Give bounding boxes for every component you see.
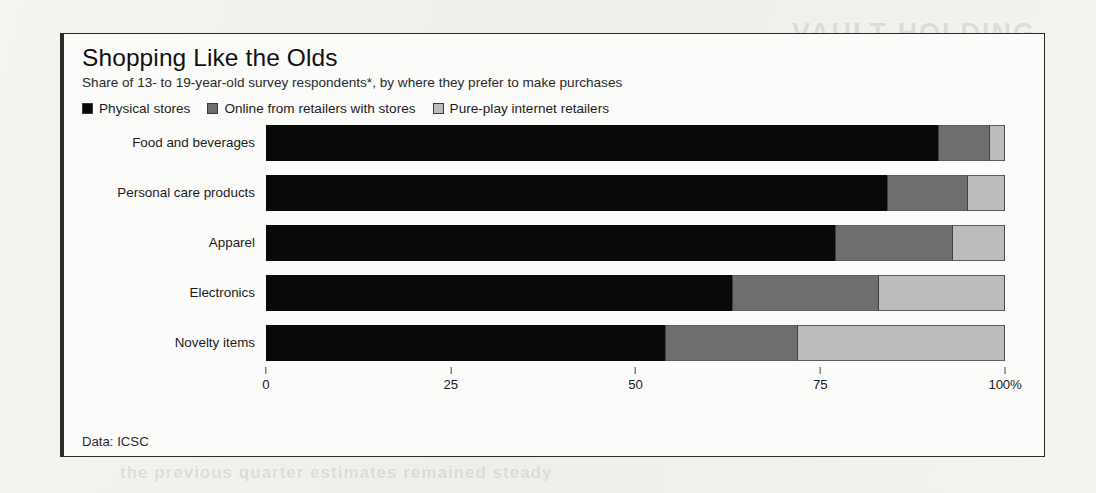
- bar-track: [266, 125, 1005, 161]
- bar-row: Novelty items: [82, 325, 1026, 361]
- chart-legend: Physical stores Online from retailers wi…: [82, 101, 1026, 116]
- page-bleed-text-3: the previous quarter estimates remained …: [120, 463, 552, 483]
- bar-row-label: Electronics: [82, 285, 266, 300]
- bar-segment: [938, 125, 990, 161]
- legend-swatch-icon: [82, 103, 93, 114]
- tick-mark: [266, 367, 267, 374]
- legend-label: Pure-play internet retailers: [450, 101, 609, 116]
- legend-item-physical-stores: Physical stores: [82, 101, 190, 116]
- bar-row-label: Food and beverages: [82, 135, 266, 150]
- bar-segment: [266, 275, 732, 311]
- tick-label: 25: [443, 377, 458, 392]
- bar-row-label: Apparel: [82, 235, 266, 250]
- bar-segment: [887, 175, 968, 211]
- legend-label: Online from retailers with stores: [224, 101, 415, 116]
- bar-segment: [879, 275, 1005, 311]
- x-axis-tick: 100%: [989, 367, 1022, 392]
- bar-segment: [665, 325, 798, 361]
- bar-rows: Food and beveragesPersonal care products…: [82, 125, 1026, 361]
- source-note: Data: ICSC: [82, 434, 149, 449]
- tick-label: 100%: [989, 377, 1022, 392]
- tick-label: 75: [813, 377, 828, 392]
- bar-segment: [266, 125, 938, 161]
- legend-swatch-icon: [207, 103, 218, 114]
- bar-segment: [968, 175, 1005, 211]
- tick-label: 50: [628, 377, 643, 392]
- x-axis-tick: 75: [813, 367, 828, 392]
- tick-mark: [1005, 367, 1006, 374]
- legend-item-online-from-retailers-with-stores: Online from retailers with stores: [207, 101, 415, 116]
- chart-subtitle: Share of 13- to 19-year-old survey respo…: [82, 75, 1026, 92]
- x-axis: 0255075100%: [82, 367, 1026, 397]
- bar-row-label: Novelty items: [82, 335, 266, 350]
- bar-segment: [798, 325, 1005, 361]
- bar-segment: [953, 225, 1005, 261]
- bar-track: [266, 225, 1005, 261]
- legend-label: Physical stores: [99, 101, 190, 116]
- bar-segment: [266, 225, 835, 261]
- bar-segment: [990, 125, 1005, 161]
- legend-swatch-icon: [433, 103, 444, 114]
- bar-row: Personal care products: [82, 175, 1026, 211]
- x-axis-ticks: 0255075100%: [266, 367, 1005, 397]
- bar-row: Apparel: [82, 225, 1026, 261]
- chart-card: Shopping Like the Olds Share of 13- to 1…: [60, 33, 1045, 457]
- tick-mark: [820, 367, 821, 374]
- bar-row: Electronics: [82, 275, 1026, 311]
- bar-segment: [835, 225, 953, 261]
- tick-label: 0: [262, 377, 269, 392]
- bar-row-label: Personal care products: [82, 185, 266, 200]
- bar-segment: [266, 175, 887, 211]
- bar-track: [266, 175, 1005, 211]
- legend-item-pure-play-internet-retailers: Pure-play internet retailers: [433, 101, 609, 116]
- bar-segment: [266, 325, 665, 361]
- x-axis-tick: 50: [628, 367, 643, 392]
- tick-mark: [450, 367, 451, 374]
- page-title: Shopping Like the Olds: [82, 43, 1026, 73]
- x-axis-tick: 25: [443, 367, 458, 392]
- bar-segment: [732, 275, 880, 311]
- bar-track: [266, 275, 1005, 311]
- bar-track: [266, 325, 1005, 361]
- tick-mark: [635, 367, 636, 374]
- bar-row: Food and beverages: [82, 125, 1026, 161]
- x-axis-tick: 0: [262, 367, 269, 392]
- plot-area: Food and beveragesPersonal care products…: [82, 125, 1026, 397]
